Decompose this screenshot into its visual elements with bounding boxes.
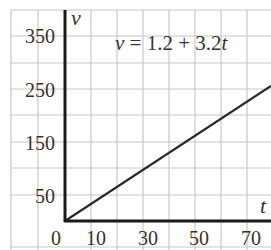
y-tick-label: 250	[25, 79, 55, 101]
series-line	[65, 86, 271, 221]
y-tick-label: 50	[35, 185, 55, 207]
x-tick-label: 50	[189, 227, 209, 249]
y-tick-label: 350	[25, 25, 55, 47]
x-axis-label: t	[260, 193, 267, 218]
x-tick-label: 0	[51, 227, 61, 249]
y-tick-label: 150	[25, 132, 55, 154]
y-axis-label: v	[71, 5, 81, 30]
equation-annotation: v = 1.2 + 3.2t	[115, 31, 229, 55]
equation-body: = 1.2 + 3.2	[124, 31, 221, 55]
x-tick-label: 10	[86, 227, 106, 249]
x-tick-label: 70	[241, 227, 261, 249]
equation-var: t	[222, 31, 229, 55]
velocity-time-chart: v t 350 250 150 50 0 10 30 50 70 v = 1.2…	[0, 0, 271, 250]
x-tick-label: 30	[138, 227, 158, 249]
